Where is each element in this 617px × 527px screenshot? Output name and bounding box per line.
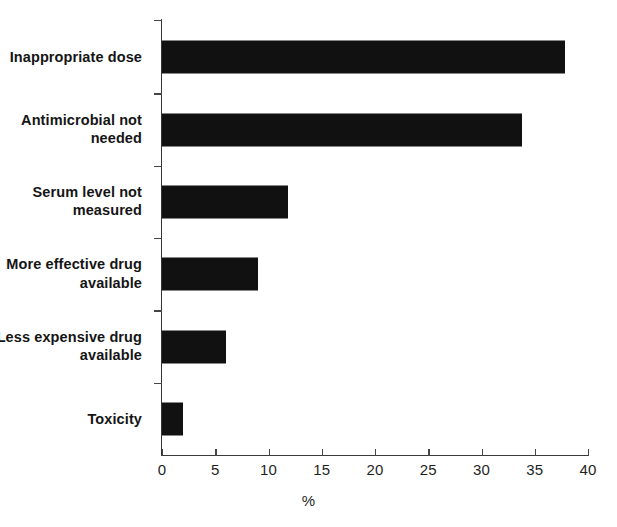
category-label: More effective drug available xyxy=(0,256,142,293)
bar xyxy=(162,258,258,291)
category-label: Toxicity xyxy=(0,410,142,429)
bar xyxy=(162,330,226,363)
y-axis-tick xyxy=(154,310,162,311)
category-label: Antimicrobial not needed xyxy=(0,111,142,148)
x-axis-tick-label: 40 xyxy=(579,461,596,478)
bar xyxy=(162,113,522,146)
x-axis-tick xyxy=(162,449,163,456)
x-axis-tick-label: 30 xyxy=(473,461,490,478)
y-axis-tick xyxy=(154,383,162,384)
x-axis-tick-label: 35 xyxy=(526,461,543,478)
bar xyxy=(162,185,288,218)
category-axis-labels: Inappropriate doseAntimicrobial not need… xyxy=(0,21,152,455)
x-axis-tick xyxy=(322,449,323,456)
x-axis-tick xyxy=(428,449,429,456)
x-axis-tick-label: 10 xyxy=(260,461,277,478)
x-axis-tick xyxy=(482,449,483,456)
x-axis-tick xyxy=(375,449,376,456)
x-axis-tick-label: 20 xyxy=(366,461,383,478)
x-axis-tick xyxy=(588,449,589,456)
plot-area xyxy=(162,21,588,455)
category-label: Serum level not measured xyxy=(0,183,142,220)
y-axis-tick-top xyxy=(154,20,162,21)
x-axis-tick-label: 25 xyxy=(420,461,437,478)
x-axis-tick xyxy=(215,449,216,456)
x-axis-tick-label: 0 xyxy=(158,461,167,478)
x-axis-tick-label: 15 xyxy=(313,461,330,478)
category-label: Less expensive drug available xyxy=(0,328,142,365)
bar xyxy=(162,41,565,74)
bar-chart: Inappropriate doseAntimicrobial not need… xyxy=(0,0,617,527)
bar xyxy=(162,402,183,435)
x-axis-title: % xyxy=(0,492,617,509)
x-axis-tick xyxy=(269,449,270,456)
category-label: Inappropriate dose xyxy=(0,48,142,67)
y-axis-tick xyxy=(154,238,162,239)
y-axis-tick xyxy=(154,93,162,94)
x-axis-tick-label: 5 xyxy=(211,461,220,478)
y-axis-tick xyxy=(154,166,162,167)
x-axis-tick xyxy=(535,449,536,456)
